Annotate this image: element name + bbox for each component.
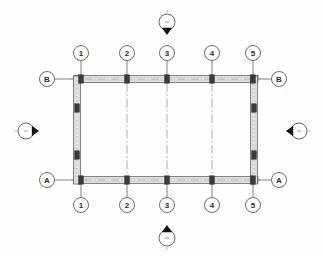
grid-bubble-bottom-2-label: 2 bbox=[125, 201, 130, 210]
wall-assembly bbox=[71, 76, 261, 185]
column-A2 bbox=[125, 176, 130, 184]
grid-bubble-top-3-label: 3 bbox=[165, 49, 170, 58]
grid-bubble-bottom-1-label: 1 bbox=[79, 201, 84, 210]
grid-bubble-bottom-1[interactable]: 1 bbox=[74, 198, 89, 213]
grid-bubble-right-A-label: A bbox=[276, 176, 282, 185]
grid-bubble-top-1-label: 1 bbox=[79, 49, 84, 58]
section-marker-top[interactable] bbox=[159, 10, 175, 35]
grid-bubble-top-4-label: 4 bbox=[210, 49, 215, 58]
column-B4 bbox=[210, 75, 215, 83]
section-markers[interactable] bbox=[14, 10, 311, 250]
grid-bubble-left-A[interactable]: A bbox=[40, 173, 55, 188]
grid-bubble-left-B[interactable]: B bbox=[40, 72, 55, 87]
column-R-mid-upper bbox=[252, 104, 257, 112]
grid-bubble-left-A-label: A bbox=[44, 176, 50, 185]
grid-bubble-top-3[interactable]: 3 bbox=[160, 46, 175, 61]
section-marker-bottom-pointer-triangle bbox=[162, 225, 172, 232]
grid-bubble-right-A[interactable]: A bbox=[272, 173, 287, 188]
column-B5 bbox=[251, 75, 256, 83]
section-marker-bottom[interactable] bbox=[159, 225, 175, 250]
column-A5 bbox=[251, 176, 256, 184]
column-A4 bbox=[210, 176, 215, 184]
grid-bubble-top-2-label: 2 bbox=[125, 49, 130, 58]
column-R-mid-lower bbox=[252, 151, 257, 159]
section-marker-top-pointer-triangle bbox=[162, 28, 172, 35]
grid-bubble-top-4[interactable]: 4 bbox=[205, 46, 220, 61]
column-B2 bbox=[125, 75, 130, 83]
grid-bubble-top-1[interactable]: 1 bbox=[74, 46, 89, 61]
grid-bubble-left-B-label: B bbox=[44, 75, 50, 84]
column-L-mid-lower bbox=[75, 151, 80, 159]
column-A3 bbox=[165, 176, 170, 184]
grid-bubble-bottom-4[interactable]: 4 bbox=[205, 198, 220, 213]
grid-bubble-right-B[interactable]: B bbox=[272, 72, 287, 87]
grid-bubble-top-5-label: 5 bbox=[251, 49, 256, 58]
column-B1 bbox=[79, 75, 84, 83]
column-B3 bbox=[165, 75, 170, 83]
grid-bubble-right-B-label: B bbox=[276, 75, 282, 84]
structural-plan-drawing: 1234512345BABA bbox=[0, 0, 323, 256]
grid-bubble-bottom-3-label: 3 bbox=[165, 201, 170, 210]
section-marker-right[interactable] bbox=[286, 123, 311, 139]
grid-bubble-bottom-2[interactable]: 2 bbox=[120, 198, 135, 213]
grid-bubble-top-2[interactable]: 2 bbox=[120, 46, 135, 61]
drawing-canvas: 1234512345BABA bbox=[0, 0, 323, 256]
column-A1 bbox=[79, 176, 84, 184]
columns bbox=[75, 75, 257, 184]
grid-bubble-bottom-5-label: 5 bbox=[251, 201, 256, 210]
grid-bubble-bottom-5[interactable]: 5 bbox=[246, 198, 261, 213]
grid-bubble-bottom-4-label: 4 bbox=[210, 201, 215, 210]
grid-bubble-top-5[interactable]: 5 bbox=[246, 46, 261, 61]
section-marker-right-pointer-triangle bbox=[286, 126, 293, 136]
section-marker-left[interactable] bbox=[14, 123, 39, 139]
section-marker-left-pointer-triangle bbox=[32, 126, 39, 136]
column-L-mid-upper bbox=[75, 104, 80, 112]
interior-grid-lines bbox=[127, 83, 212, 178]
grid-bubble-bottom-3[interactable]: 3 bbox=[160, 198, 175, 213]
